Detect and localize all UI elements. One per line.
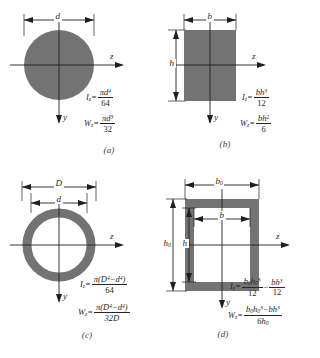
- formula-moment-of-inertia-a: Iz=πd464: [86, 88, 114, 107]
- dimension-label-h: h: [168, 59, 176, 68]
- figure-sheet: d z y Iz=πd464 Wz=πd332 (a): [0, 0, 320, 358]
- formula-section-modulus-a: Wz=πd332: [84, 114, 116, 133]
- axis-label-z: z: [110, 52, 114, 61]
- axis-label-z: z: [110, 232, 114, 241]
- panel-c: D d z y Iz=π(D4−d4)64 Wz=π(D4−d4)32D (c): [0, 179, 160, 358]
- dimension-label-d: d: [55, 195, 63, 204]
- dimension-label-D: D: [54, 179, 64, 188]
- dimension-label-b: b: [206, 12, 214, 21]
- panel-caption-b: (b): [210, 139, 240, 149]
- dimension-label-h: h: [181, 239, 189, 248]
- axis-label-z: z: [276, 232, 280, 241]
- panel-a-graphic: [0, 0, 160, 179]
- panel-caption-d: (d): [208, 329, 238, 339]
- formula-section-modulus-b: Wz=bh26: [240, 114, 272, 133]
- panel-b-graphic: [160, 0, 320, 179]
- panel-b: b h z y Iz=bh312 Wz=bh26 (b): [160, 0, 320, 179]
- dimension-label-d: d: [54, 12, 62, 21]
- axis-label-y: y: [63, 113, 67, 122]
- axis-label-y: y: [63, 292, 67, 301]
- formula-moment-of-inertia-c: Iz=π(D4−d4)64: [80, 275, 128, 294]
- axis-label-z: z: [252, 52, 256, 61]
- axis-label-y: y: [214, 113, 218, 122]
- panel-caption-c: (c): [72, 330, 102, 340]
- panel-d-graphic: [160, 179, 320, 358]
- formula-section-modulus-c: Wz=π(D4−d4)32D: [78, 303, 131, 322]
- formula-section-modulus-d: Wz=b0h03−bh36h0: [228, 305, 283, 327]
- panel-d: b0 b h0 h z y Iz=b0h0312−bh312 Wz=b0h03−…: [160, 179, 320, 358]
- dimension-label-h0: h0: [162, 239, 172, 249]
- panel-a: d z y Iz=πd464 Wz=πd332 (a): [0, 0, 160, 179]
- formula-moment-of-inertia-d: Iz=b0h0312−bh312: [230, 277, 286, 297]
- dimension-label-b: b: [218, 211, 226, 220]
- dimension-label-b0: b0: [214, 177, 224, 187]
- formula-moment-of-inertia-b: Iz=bh312: [242, 88, 270, 107]
- panel-caption-a: (a): [94, 145, 124, 155]
